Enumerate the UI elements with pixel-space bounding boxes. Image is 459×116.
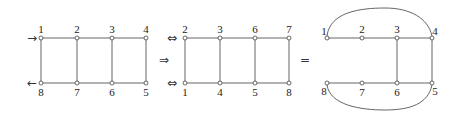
g1-label-top-4: 4 <box>143 23 149 35</box>
g3-label-top-4: 4 <box>432 25 438 37</box>
arrow-left-icon: ← <box>27 76 37 90</box>
graph-1: 1 2 3 4 8 7 6 5 → ← <box>27 23 149 98</box>
g3-label-bottom-3: 6 <box>394 86 400 98</box>
g1-label-bottom-4: 5 <box>143 86 149 98</box>
g3-label-bottom-1: 8 <box>321 85 327 97</box>
graph-2: 2 3 6 7 1 4 5 8 ⇔ ⇔ <box>167 23 292 98</box>
graph-transformation-diagram: 1 2 3 4 8 7 6 5 → ← ⇒ 2 3 6 7 1 4 5 8 ⇔ … <box>0 0 459 116</box>
g1-label-top-3: 3 <box>109 23 115 35</box>
g3-label-bottom-2: 7 <box>359 86 365 98</box>
g1-label-top-1: 1 <box>38 23 44 35</box>
g1-label-bottom-3: 6 <box>109 86 115 98</box>
g2-label-top-2: 3 <box>217 23 223 35</box>
g1-label-bottom-2: 7 <box>74 86 80 98</box>
g2-label-bottom-3: 5 <box>252 86 258 98</box>
bidirectional-arrow-icon: ⇔ <box>167 76 177 90</box>
g1-label-bottom-1: 8 <box>38 86 44 98</box>
g2-label-bottom-1: 1 <box>182 86 188 98</box>
g2-label-bottom-2: 4 <box>217 86 223 98</box>
equals-icon: = <box>300 53 310 67</box>
implies-icon: ⇒ <box>159 53 169 67</box>
g3-label-bottom-4: 5 <box>432 85 438 97</box>
arrow-right-icon: → <box>27 31 37 45</box>
g2-label-bottom-4: 8 <box>286 86 292 98</box>
g1-label-top-2: 2 <box>74 23 80 35</box>
g2-label-top-3: 6 <box>252 23 258 35</box>
g2-label-top-4: 7 <box>286 23 292 35</box>
bidirectional-arrow-icon: ⇔ <box>167 31 177 45</box>
g2-label-top-1: 2 <box>182 23 188 35</box>
graph-3: 1 2 3 4 8 7 6 5 <box>321 8 438 110</box>
g3-label-top-1: 1 <box>321 25 327 37</box>
g3-label-top-2: 2 <box>359 23 365 35</box>
g3-label-top-3: 3 <box>394 23 400 35</box>
